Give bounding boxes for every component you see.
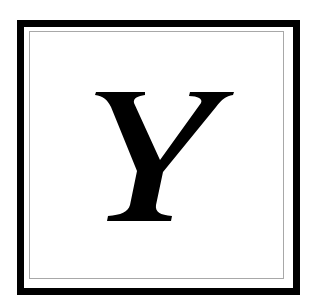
- letter-y-shape: [95, 92, 234, 221]
- letter-y-glyph: [0, 0, 314, 308]
